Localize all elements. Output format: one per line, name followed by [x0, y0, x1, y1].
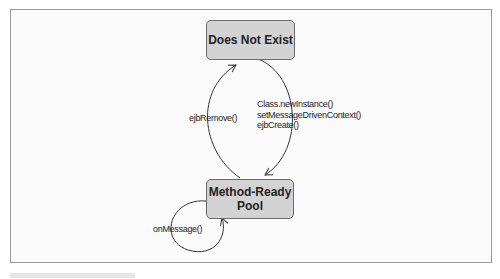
state-does-not-exist: Does Not Exist [206, 20, 295, 60]
transition-label-ejbremove: ejbRemove() [189, 113, 237, 124]
state-label-line1: Method-Ready [209, 185, 292, 199]
transition-label-create: Class.newInstance() setMessageDrivenCont… [257, 99, 361, 131]
transition-label-newinstance: Class.newInstance() [257, 99, 361, 110]
transition-label-setcontext: setMessageDrivenContext() [257, 110, 361, 121]
transition-label-ejbcreate: ejbCreate() [257, 120, 361, 131]
state-label-line2: Pool [237, 199, 263, 213]
state-label: Does Not Exist [208, 33, 293, 47]
figure-caption-fragment [10, 270, 140, 279]
transition-label-onmessage: onMessage() [153, 224, 202, 235]
state-method-ready-pool: Method-Ready Pool [206, 179, 294, 219]
